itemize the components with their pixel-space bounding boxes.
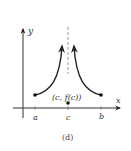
curve-left-branch	[35, 46, 62, 95]
curve-right-branch	[74, 46, 101, 95]
figure-caption: (d)	[62, 133, 73, 142]
tick-label-a: a	[33, 113, 38, 122]
graph-figure: y x (c, f(c)) a c b (d)	[0, 0, 131, 151]
y-axis-label: y	[27, 26, 34, 36]
endpoint-b	[99, 93, 103, 97]
point-label: (c, f(c))	[52, 93, 82, 102]
tick-label-c: c	[66, 113, 71, 122]
x-axis-label: x	[116, 96, 121, 105]
tick-label-b: b	[99, 112, 104, 121]
endpoint-a	[33, 93, 37, 97]
